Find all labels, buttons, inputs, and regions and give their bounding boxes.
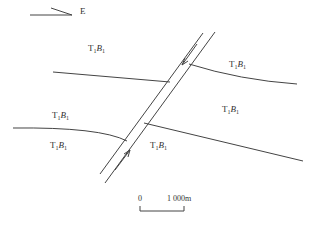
fault-line — [100, 32, 215, 183]
scale-start-label: 0 — [138, 194, 142, 203]
boundary-lower-left — [13, 128, 127, 141]
direction-arrow-icon — [30, 8, 72, 15]
boundary-upper-left — [53, 72, 170, 82]
geologic-map — [0, 0, 310, 225]
boundary-lower-right — [144, 123, 303, 161]
unit-label: T1B1 — [229, 59, 246, 70]
unit-label: T1B1 — [222, 104, 239, 115]
unit-label: T1B1 — [50, 140, 67, 151]
slip-arrow-upper-icon — [182, 44, 197, 65]
scale-end-label: 1 000m — [167, 194, 191, 203]
scale-bar — [140, 206, 184, 211]
unit-label: T1B1 — [52, 110, 69, 121]
direction-label: E — [80, 6, 86, 16]
slip-arrow-lower-icon — [115, 150, 130, 170]
unit-label: T1B1 — [88, 43, 105, 54]
unit-label: T1B1 — [150, 140, 167, 151]
